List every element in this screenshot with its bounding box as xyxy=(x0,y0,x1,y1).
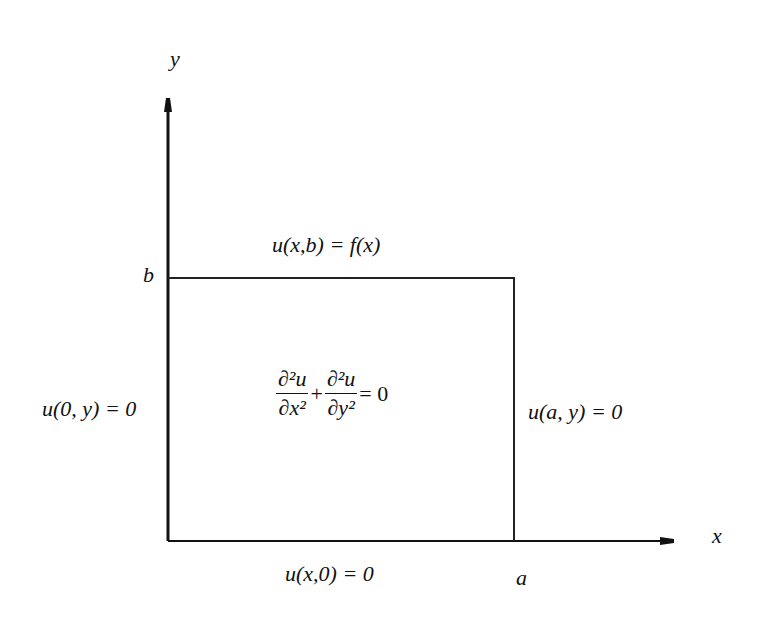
pde-plus-operator: + xyxy=(310,381,322,406)
corner-label-a: a xyxy=(516,567,527,589)
pde-term-2-denominator: ∂y² xyxy=(325,394,357,419)
bottom-boundary-condition: u(x,0) = 0 xyxy=(285,563,374,585)
corner-label-b: b xyxy=(143,264,154,286)
y-axis-label: y xyxy=(170,48,180,70)
x-axis-arrow-icon xyxy=(660,537,674,545)
right-boundary-condition: u(a, y) = 0 xyxy=(528,401,622,423)
diagram-lines xyxy=(0,0,766,620)
pde-term-1-numerator: ∂²u xyxy=(276,368,308,394)
pde-term-2: ∂²u ∂y² xyxy=(325,368,357,419)
y-axis-arrow-icon xyxy=(164,98,172,112)
pde-term-1: ∂²u ∂x² xyxy=(276,368,308,419)
pde-term-1-denominator: ∂x² xyxy=(276,394,308,419)
pde-term-2-numerator: ∂²u xyxy=(325,368,357,394)
x-axis-label: x xyxy=(712,525,722,547)
top-boundary-condition: u(x,b) = f(x) xyxy=(272,234,380,256)
left-boundary-condition: u(0, y) = 0 xyxy=(42,398,136,420)
laplace-equation: ∂²u ∂x² + ∂²u ∂y² = 0 xyxy=(276,368,390,419)
pde-rhs: = 0 xyxy=(359,381,388,406)
diagram-canvas: y x b a u(x,b) = f(x) u(0, y) = 0 u(a, y… xyxy=(0,0,766,620)
